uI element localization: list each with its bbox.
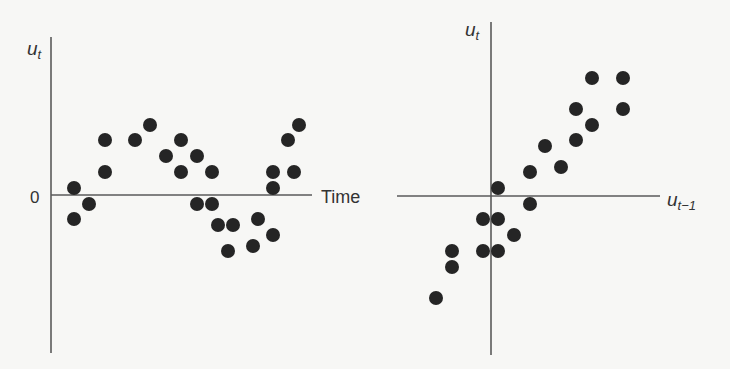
data-point xyxy=(190,197,204,211)
data-point xyxy=(281,133,295,147)
data-point xyxy=(585,118,599,132)
data-point xyxy=(445,260,459,274)
data-point xyxy=(287,165,301,179)
data-point xyxy=(226,218,240,232)
right-panel: ut ut−1 xyxy=(397,19,696,355)
data-point xyxy=(491,244,505,258)
data-point xyxy=(266,228,280,242)
data-point xyxy=(585,71,599,85)
data-point xyxy=(507,228,521,242)
data-point xyxy=(98,133,112,147)
data-point xyxy=(82,197,96,211)
left-panel: ut 0 Time xyxy=(27,37,360,353)
data-point xyxy=(616,71,630,85)
data-point xyxy=(538,139,552,153)
right-data-points xyxy=(429,71,630,305)
left-zero-tick-label: 0 xyxy=(30,188,39,207)
data-point xyxy=(569,133,583,147)
data-point xyxy=(523,165,537,179)
data-point xyxy=(67,181,81,195)
data-point xyxy=(251,212,265,226)
data-point xyxy=(211,218,225,232)
data-point xyxy=(221,244,235,258)
left-data-points xyxy=(67,118,306,258)
data-point xyxy=(205,165,219,179)
data-point xyxy=(67,212,81,226)
data-point xyxy=(266,165,280,179)
data-point xyxy=(190,149,204,163)
left-y-axis-label: ut xyxy=(27,38,43,62)
data-point xyxy=(476,244,490,258)
data-point xyxy=(143,118,157,132)
right-x-axis-label: ut−1 xyxy=(667,189,696,213)
data-point xyxy=(491,181,505,195)
data-point xyxy=(174,165,188,179)
data-point xyxy=(292,118,306,132)
right-y-axis-label: ut xyxy=(465,19,481,43)
data-point xyxy=(569,102,583,116)
figure: ut 0 Time ut ut−1 xyxy=(0,0,730,369)
data-point xyxy=(476,212,490,226)
data-point xyxy=(205,197,219,211)
data-point xyxy=(159,149,173,163)
data-point xyxy=(616,102,630,116)
data-point xyxy=(491,212,505,226)
data-point xyxy=(266,181,280,195)
data-point xyxy=(429,291,443,305)
data-point xyxy=(523,197,537,211)
data-point xyxy=(445,244,459,258)
data-point xyxy=(246,239,260,253)
left-x-axis-label: Time xyxy=(321,187,360,207)
data-point xyxy=(554,160,568,174)
data-point xyxy=(98,165,112,179)
data-point xyxy=(174,133,188,147)
data-point xyxy=(128,133,142,147)
